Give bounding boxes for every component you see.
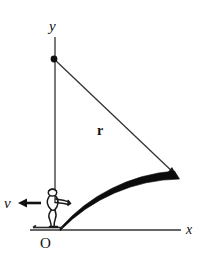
x-axis-label: x bbox=[186, 223, 192, 237]
velocity-arrow bbox=[18, 199, 41, 208]
physics-diagram: y x r v O bbox=[0, 0, 208, 260]
radius-line bbox=[54, 59, 176, 175]
pivot-dot bbox=[51, 56, 58, 63]
y-axis-label: y bbox=[49, 19, 56, 34]
diagram-canvas bbox=[0, 0, 208, 260]
velocity-label: v bbox=[4, 196, 11, 211]
curved-slope bbox=[60, 171, 180, 231]
radius-label: r bbox=[97, 124, 103, 138]
origin-label: O bbox=[40, 236, 51, 251]
